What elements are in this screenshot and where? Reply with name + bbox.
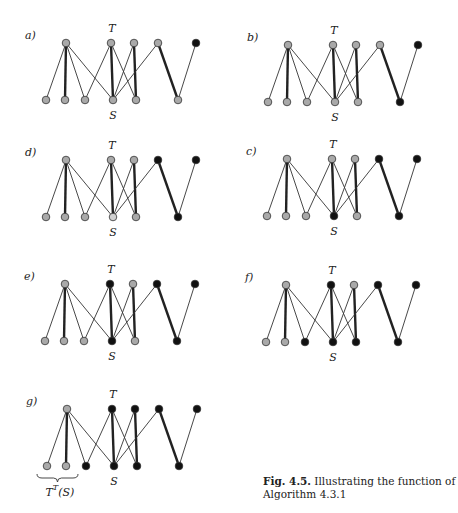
top-set-label: T — [328, 264, 337, 277]
graph-edge — [86, 409, 112, 466]
bottom-node-4 — [108, 337, 116, 345]
matching-edge — [66, 409, 67, 466]
top-node-5 — [412, 281, 420, 289]
bottom-node-3 — [302, 212, 310, 220]
bracket-label: TT(S) — [46, 483, 75, 499]
matching-edge — [111, 43, 113, 100]
panel-f: f)TS — [244, 264, 420, 364]
panel-a: a)TS — [25, 22, 200, 122]
bottom-node-5 — [133, 462, 141, 470]
bottom-node-1 — [262, 338, 270, 346]
top-set-label: T — [107, 263, 116, 276]
top-node-4 — [155, 405, 163, 413]
matching-edge — [379, 159, 399, 216]
matching-edge — [65, 160, 66, 217]
bottom-node-2 — [283, 98, 291, 106]
top-node-3 — [352, 41, 360, 49]
top-node-4 — [154, 156, 162, 164]
panel-label: f) — [244, 271, 253, 284]
bottom-node-3 — [82, 462, 90, 470]
graph-edge — [288, 45, 335, 102]
graph-edge — [178, 160, 196, 217]
graph-edge — [178, 43, 196, 100]
matching-edge — [378, 285, 398, 342]
bottom-set-label: S — [329, 351, 337, 364]
top-node-5 — [191, 280, 199, 288]
graph-edge — [66, 43, 113, 100]
top-node-3 — [351, 155, 359, 163]
top-node-4 — [153, 280, 161, 288]
top-set-label: T — [329, 138, 338, 151]
figure-canvas: a)TSb)TSd)TSc)TSe)TSf)TSg)TSTT(S) — [0, 0, 458, 513]
top-node-3 — [131, 405, 139, 413]
graph-edge — [112, 284, 133, 341]
graph-edge — [113, 160, 134, 217]
bottom-node-5 — [354, 98, 362, 106]
matching-edge — [380, 45, 400, 102]
bottom-node-5 — [132, 96, 140, 104]
bottom-node-2 — [281, 338, 289, 346]
graph-edge — [85, 43, 111, 100]
top-node-4 — [154, 39, 162, 47]
graph-edge — [85, 160, 111, 217]
bottom-node-6 — [173, 337, 181, 345]
panel-g: g)TSTT(S) — [26, 388, 201, 499]
top-node-3 — [130, 156, 138, 164]
graph-edge — [400, 45, 418, 102]
graph-edge — [333, 285, 354, 342]
matching-edge — [332, 159, 334, 216]
top-node-1 — [284, 41, 292, 49]
graph-edge — [45, 284, 65, 341]
top-set-label: T — [330, 24, 339, 37]
graph-edge — [46, 160, 66, 217]
panel-label: d) — [25, 146, 36, 159]
panel-label: b) — [247, 31, 258, 44]
bottom-set-label: S — [109, 226, 117, 239]
figure-caption: Fig. 4.5. Illustrating the function of A… — [263, 475, 458, 501]
graph-edge — [179, 409, 197, 466]
top-node-4 — [376, 41, 384, 49]
top-node-2 — [107, 156, 115, 164]
graph-edge — [177, 284, 195, 341]
bottom-node-2 — [61, 213, 69, 221]
bottom-node-4 — [109, 213, 117, 221]
top-node-1 — [61, 280, 69, 288]
top-node-2 — [106, 280, 114, 288]
caption-number: Fig. 4.5. — [263, 475, 311, 487]
graph-edge — [287, 159, 306, 216]
panel-e: e)TS — [24, 263, 199, 363]
top-node-2 — [108, 405, 116, 413]
graph-edge — [67, 409, 86, 466]
bottom-node-1 — [263, 212, 271, 220]
matching-edge — [111, 160, 113, 217]
bottom-node-3 — [301, 338, 309, 346]
matching-edge — [285, 285, 286, 342]
panel-label: e) — [24, 270, 35, 283]
bottom-node-6 — [175, 462, 183, 470]
panel-label: a) — [25, 29, 36, 42]
bottom-node-5 — [132, 213, 140, 221]
top-node-4 — [375, 155, 383, 163]
matching-edge — [64, 284, 65, 341]
top-set-label: T — [108, 139, 117, 152]
matching-edge — [331, 285, 333, 342]
top-node-2 — [329, 41, 337, 49]
panel-label: c) — [246, 145, 256, 158]
graph-edge — [288, 45, 307, 102]
bottom-node-6 — [396, 98, 404, 106]
graph-edge — [287, 159, 334, 216]
matching-edge — [287, 45, 288, 102]
matching-edge — [65, 43, 66, 100]
bottom-node-6 — [174, 213, 182, 221]
panel-c: c)TS — [246, 138, 421, 238]
top-node-1 — [283, 155, 291, 163]
matching-edge — [333, 45, 335, 102]
brace-icon — [37, 474, 78, 482]
graph-edge — [66, 43, 85, 100]
graph-edge — [307, 45, 333, 102]
top-node-5 — [193, 405, 201, 413]
bottom-node-3 — [303, 98, 311, 106]
bottom-node-4 — [330, 212, 338, 220]
top-node-5 — [413, 155, 421, 163]
bottom-node-5 — [353, 212, 361, 220]
